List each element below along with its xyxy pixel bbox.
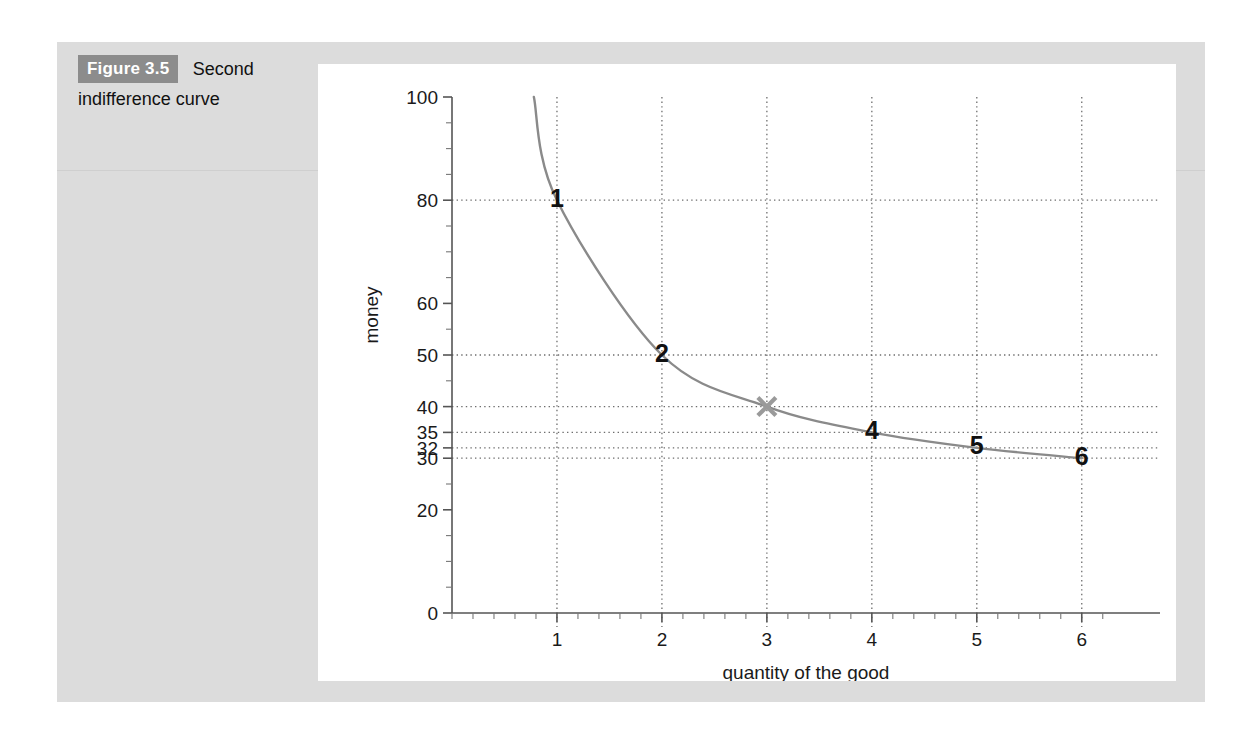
- curve-point-label: 5: [970, 431, 984, 459]
- indifference-curve-chart: 02030323540506080100123456 12456 quantit…: [318, 64, 1176, 681]
- y-tick-label: 20: [417, 500, 438, 521]
- chart-tick-labels: 02030323540506080100123456: [406, 87, 1087, 650]
- x-tick-label: 3: [762, 629, 773, 650]
- chart-curve: [534, 97, 1082, 458]
- x-axis-title: quantity of the good: [723, 662, 890, 681]
- y-tick-label: 35: [417, 422, 438, 443]
- curve-point-label: 4: [865, 416, 879, 444]
- chart-gridlines: [452, 97, 1160, 627]
- y-tick-label: 0: [427, 603, 438, 624]
- caption-line-1: Second: [193, 59, 254, 80]
- y-tick-label: 50: [417, 345, 438, 366]
- figure-card: 02030323540506080100123456 12456 quantit…: [318, 64, 1176, 681]
- chart-point-labels: 12456: [550, 184, 1089, 470]
- chart-ticks: [443, 97, 1103, 622]
- x-tick-label: 5: [972, 629, 983, 650]
- figure-caption: Figure 3.5 Second indifference curve: [78, 55, 308, 110]
- y-tick-label: 80: [417, 190, 438, 211]
- x-tick-label: 6: [1076, 629, 1087, 650]
- y-tick-label: 60: [417, 293, 438, 314]
- chart-axis-titles: quantity of the goodmoney: [361, 286, 889, 681]
- y-tick-label: 100: [406, 87, 438, 108]
- caption-line-2: indifference curve: [78, 89, 308, 110]
- figure-number-badge: Figure 3.5: [78, 55, 178, 83]
- y-axis-title: money: [361, 286, 382, 344]
- x-tick-label: 1: [552, 629, 563, 650]
- x-tick-label: 4: [867, 629, 878, 650]
- indifference-curve-path: [534, 97, 1082, 458]
- x-tick-label: 2: [657, 629, 668, 650]
- curve-point-label: 2: [655, 339, 669, 367]
- curve-point-label: 1: [550, 184, 564, 212]
- y-tick-label: 40: [417, 397, 438, 418]
- curve-point-label: 6: [1075, 442, 1089, 470]
